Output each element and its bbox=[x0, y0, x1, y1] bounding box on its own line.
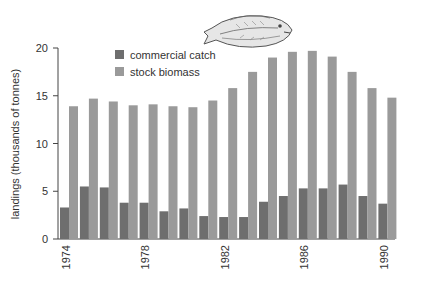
bar-stock-biomass-1978 bbox=[149, 104, 158, 239]
y-axis: 05101520 bbox=[36, 42, 58, 245]
x-tick-label: 1990 bbox=[378, 245, 390, 269]
bar-stock-biomass-1979 bbox=[169, 106, 178, 239]
bar-commercial-catch-1974 bbox=[60, 207, 69, 239]
bar-commercial-catch-1978 bbox=[140, 203, 149, 239]
legend-label-commercial-catch: commercial catch bbox=[130, 49, 216, 61]
bar-stock-biomass-1987 bbox=[328, 57, 337, 239]
legend-swatch-commercial-catch bbox=[115, 50, 124, 59]
bar-commercial-catch-1980 bbox=[179, 208, 188, 239]
bar-stock-biomass-1974 bbox=[69, 106, 78, 239]
bar-commercial-catch-1984 bbox=[259, 202, 268, 239]
y-tick-label: 5 bbox=[42, 185, 48, 197]
bar-commercial-catch-1977 bbox=[120, 203, 129, 239]
bar-stock-biomass-1977 bbox=[129, 105, 138, 239]
legend: commercial catch stock biomass bbox=[115, 49, 216, 78]
bar-commercial-catch-1979 bbox=[160, 211, 169, 239]
y-tick-label: 0 bbox=[42, 233, 48, 245]
bar-commercial-catch-1983 bbox=[239, 217, 248, 239]
bar-stock-biomass-1985 bbox=[288, 52, 297, 239]
x-tick-label: 1982 bbox=[219, 245, 231, 269]
bar-stock-biomass-1976 bbox=[109, 101, 118, 239]
bar-commercial-catch-1986 bbox=[299, 188, 308, 239]
bar-commercial-catch-1988 bbox=[339, 185, 348, 239]
bar-commercial-catch-1975 bbox=[80, 186, 89, 239]
bar-stock-biomass-1984 bbox=[268, 58, 277, 239]
bar-stock-biomass-1990 bbox=[387, 98, 396, 239]
bar-stock-biomass-1989 bbox=[368, 88, 377, 239]
y-tick-label: 10 bbox=[36, 138, 48, 150]
y-tick-label: 15 bbox=[36, 90, 48, 102]
bar-commercial-catch-1976 bbox=[100, 187, 109, 239]
fish-icon bbox=[204, 15, 292, 47]
legend-label-stock-biomass: stock biomass bbox=[130, 66, 200, 78]
y-tick-label: 20 bbox=[36, 42, 48, 54]
bar-commercial-catch-1982 bbox=[219, 217, 228, 239]
bar-stock-biomass-1983 bbox=[248, 72, 257, 239]
bar-commercial-catch-1987 bbox=[319, 188, 328, 239]
x-tick-label: 1986 bbox=[298, 245, 310, 269]
bar-chart: 05101520 landings (thousands of tonnes) … bbox=[0, 0, 441, 289]
x-tick-label: 1978 bbox=[139, 245, 151, 269]
x-tick-label: 1974 bbox=[60, 245, 72, 269]
bar-stock-biomass-1982 bbox=[228, 88, 237, 239]
bars-group bbox=[60, 51, 396, 239]
bar-stock-biomass-1975 bbox=[89, 99, 98, 239]
bar-stock-biomass-1986 bbox=[308, 51, 317, 239]
bar-commercial-catch-1989 bbox=[359, 196, 368, 239]
bar-stock-biomass-1980 bbox=[188, 107, 197, 239]
bar-stock-biomass-1981 bbox=[208, 101, 217, 239]
bar-stock-biomass-1988 bbox=[348, 72, 357, 239]
bar-commercial-catch-1990 bbox=[378, 204, 387, 239]
y-axis-title: landings (thousands of tonnes) bbox=[9, 69, 21, 219]
bar-commercial-catch-1981 bbox=[199, 216, 208, 239]
legend-swatch-stock-biomass bbox=[115, 67, 124, 76]
x-axis: 19741978198219861990 bbox=[58, 239, 395, 269]
bar-commercial-catch-1985 bbox=[279, 196, 288, 239]
